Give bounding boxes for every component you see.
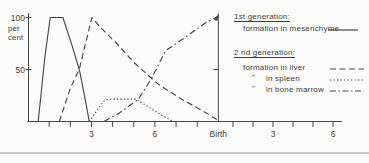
ditto-mark: " — [252, 73, 255, 83]
dashed-line-sample-icon — [329, 66, 365, 72]
legend-heading-1st-generation: 1st generation: — [234, 12, 367, 22]
curve-formation-in-mesenchyme — [38, 18, 89, 122]
curve-formation-in-spleen — [89, 99, 173, 121]
legend-item-label: in bone marrow — [234, 85, 324, 95]
page-bottom-rule — [0, 152, 369, 154]
y-axis-unit-label: cent — [8, 33, 24, 42]
legend-item-label: formation in mesenchyme — [234, 24, 339, 34]
x-label-postnatal-6: 6 — [331, 129, 336, 139]
curve-formation-in-liver — [59, 18, 216, 122]
chart-legend: 1st generation: formation in mesenchyme … — [234, 12, 367, 102]
legend-item-liver: formation in liver — [234, 63, 367, 73]
legend-item-label: formation in liver — [234, 63, 305, 73]
legend-heading-text: 2 nd generation: — [234, 48, 295, 57]
figure-blood-cell-formation-chart: 10050percent36Birth36 1st generation: fo… — [0, 0, 369, 163]
legend-item-bone-marrow: " in bone marrow — [234, 85, 367, 95]
legend-item-label: in spleen — [234, 74, 300, 84]
dashdot-line-sample-icon — [329, 88, 365, 94]
dotted-line-sample-icon — [329, 77, 365, 83]
y-axis-unit-label: per — [8, 24, 20, 33]
arrowhead-icon — [214, 14, 219, 21]
x-label-postnatal-3: 3 — [271, 129, 276, 139]
x-label-prenatal-6: 6 — [153, 129, 158, 139]
curve-formation-in-bone-marrow — [104, 17, 218, 122]
legend-item-spleen: " in spleen — [234, 74, 367, 84]
x-label-prenatal-3: 3 — [89, 129, 94, 139]
legend-heading-2nd-generation: 2 nd generation: — [234, 48, 367, 58]
x-label-birth: Birth — [210, 129, 228, 139]
legend-item-mesenchyme: formation in mesenchyme — [234, 24, 367, 34]
y-tick-label-50: 50 — [16, 65, 26, 75]
y-tick-label-100: 100 — [11, 13, 25, 23]
legend-heading-text: 1st generation: — [234, 12, 290, 21]
solid-line-sample-icon — [327, 27, 359, 33]
ditto-mark: " — [252, 84, 255, 94]
